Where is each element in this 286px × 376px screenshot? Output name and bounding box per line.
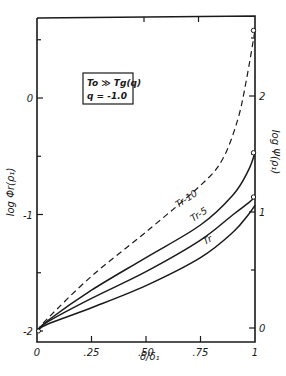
endpoint-marker-tr-10 [251,151,255,155]
y-right-tick-label: 2 [259,91,265,102]
y-left-tick-label: 0 [27,93,33,104]
series-line-tr-5 [37,197,255,331]
endpoint-marker-dashed [251,28,255,32]
y-right-tick-label: 1 [259,207,265,218]
y-left-tick-label: -1 [23,210,33,221]
endpoint-marker-tr-5 [251,195,255,199]
x-tick-label: .75 [193,347,209,358]
y-axis-left-label: log Φr(ρ₁) [5,168,16,217]
y-left-tick-label: -2 [23,326,33,337]
chart: 0.25.50.751 0-1-2 210 To ≫ Tg(q) q = -1.… [0,0,286,376]
legend-box: To ≫ Tg(q) q = -1.0 [83,73,141,104]
legend-line-2: q = -1.0 [87,91,127,101]
legend-line-1: To ≫ Tg(q) [87,78,141,88]
y-right-tick-label: 0 [259,323,265,334]
start-marker [37,329,41,333]
x-axis-label: δ/δ₁ [140,351,160,362]
x-tick-label: 0 [34,347,40,358]
x-tick-label: 1 [252,347,258,358]
label-tr: Tr [201,232,215,246]
y-axis-right-label: log Ψ(ρ₁) [270,130,281,174]
plot-frame [37,16,255,342]
x-tick-label: .25 [84,347,100,358]
label-tr-10: Tr-10 [173,187,199,209]
